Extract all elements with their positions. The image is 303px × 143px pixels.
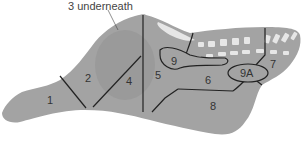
shoulder-shading	[95, 30, 155, 100]
cut-diagram	[0, 0, 303, 143]
label-9: 9	[171, 55, 177, 67]
label-2: 2	[85, 72, 91, 84]
label-4: 4	[126, 75, 132, 87]
label-5: 5	[155, 69, 161, 81]
label-6: 6	[205, 74, 211, 86]
label-7: 7	[270, 58, 276, 70]
label-9A: 9A	[240, 67, 253, 79]
label-1: 1	[47, 94, 53, 106]
label-8: 8	[210, 100, 216, 112]
annotation-3-underneath: 3 underneath	[68, 0, 133, 12]
